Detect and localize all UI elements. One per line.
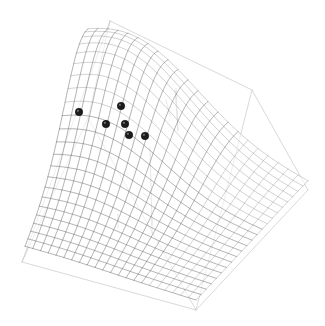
data-point-p1 (75, 108, 83, 116)
surface-fill (25, 28, 308, 300)
data-point-highlight-p3 (104, 122, 106, 124)
wireframe-surface-mesh (25, 28, 308, 300)
data-point-p2 (117, 102, 125, 110)
data-point-p4 (121, 120, 129, 128)
surface-plot-svg (0, 0, 325, 326)
data-point-p5 (125, 131, 133, 139)
data-point-highlight-p2 (119, 104, 121, 106)
data-point-p3 (102, 120, 110, 128)
data-point-highlight-p4 (123, 122, 125, 124)
data-point-p6 (141, 132, 149, 140)
data-point-highlight-p1 (77, 110, 79, 112)
plot-root (0, 0, 325, 326)
data-point-highlight-p6 (143, 134, 145, 136)
data-point-highlight-p5 (127, 133, 129, 135)
